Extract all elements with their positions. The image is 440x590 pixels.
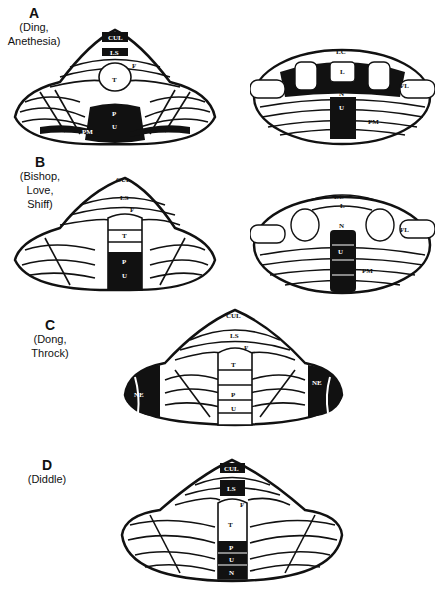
label-cul: CUL [224,465,239,473]
label-u: U [339,104,344,112]
panel-b-ventral-cerebellum: LC L N U FL PM [250,190,435,300]
panel-d-letter: D [12,458,82,472]
label-u: U [229,556,234,564]
label-t: T [122,232,127,240]
label-l: L [340,68,345,76]
label-p: P [112,110,117,118]
label-pm: PM [362,267,373,275]
label-u: U [112,123,117,131]
label-l: L [340,202,345,210]
panel-d-label: D (Diddle) [12,458,82,486]
label-fl: FL [400,82,409,90]
panel-c-letter: C [20,318,80,332]
label-f: F [130,206,134,214]
panel-b-dorsal-cerebellum: CUL LS F T P U [10,170,220,295]
label-n: N [229,569,234,577]
label-n: N [339,222,344,230]
label-lc: LC [334,193,344,201]
label-f: F [132,62,136,70]
label-u: U [231,405,236,413]
label-n: N [339,90,344,98]
panel-a-dorsal-cerebellum: CUL LS F T P U PM [10,22,220,147]
label-cul: CUL [116,176,131,184]
label-ne-right: NE [312,379,322,387]
label-ne-left: NE [134,391,144,399]
panel-b-letter: B [10,155,70,169]
label-cul: CUL [108,34,123,42]
panel-c-label: C (Dong, Throck) [20,318,80,360]
panel-a-ventral-cerebellum: LC L N U FL PM [250,42,435,147]
label-ls: LS [227,485,236,493]
label-p: P [229,544,234,552]
label-f: F [244,344,248,352]
label-t: T [231,361,236,369]
label-pm: PM [368,118,379,126]
label-t: T [228,521,233,529]
label-t: T [112,76,117,84]
panel-c-authors-1: (Dong, [33,333,66,345]
label-p: P [231,391,236,399]
panel-d-authors-1: (Diddle) [28,473,67,485]
label-lc: LC [336,48,346,56]
label-f: F [240,501,244,509]
label-p: P [122,258,127,266]
label-cul: CUL [226,312,241,320]
label-ls: LS [110,49,119,57]
label-u: U [338,248,343,256]
panel-c-dorsal-cerebellum: CUL LS F T P U NE NE [120,305,345,430]
panel-d-dorsal-cerebellum: CUL LS F T P U N [120,455,345,585]
panel-c-authors-2: Throck) [31,347,68,359]
label-fl: FL [400,226,409,234]
panel-a-letter: A [4,6,64,20]
label-u: U [122,272,127,280]
label-pm: PM [82,128,93,136]
label-ls: LS [120,194,129,202]
label-ls: LS [230,332,239,340]
